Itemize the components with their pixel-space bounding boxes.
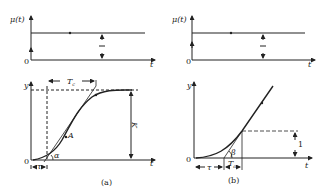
origin-label: 0	[24, 57, 29, 66]
panel-a-input-plot	[31, 16, 155, 60]
svg-text:τ: τ	[207, 163, 212, 172]
response-curve	[33, 90, 132, 160]
alpha-label: α	[54, 151, 60, 160]
svg-text:t: t	[308, 60, 312, 69]
svg-text:0: 0	[24, 157, 29, 166]
svg-text:y: y	[186, 81, 192, 90]
beta-label: β	[230, 148, 236, 157]
input-ylabel: μ(t)	[10, 15, 25, 24]
unit-label: 1	[298, 140, 303, 149]
svg-text:μ(t): μ(t)	[172, 15, 187, 24]
panel-b-response-plot	[194, 82, 312, 170]
panel-b-input-plot	[192, 16, 315, 60]
svg-text:0: 0	[186, 155, 191, 164]
svg-text:t: t	[305, 161, 309, 170]
tc-label: Tc	[67, 77, 75, 87]
gain-label: K	[130, 121, 139, 129]
ta-label: Ta	[228, 159, 236, 169]
tangent-line	[44, 86, 96, 162]
caption-a: (a)	[101, 178, 112, 187]
response-ylabel: y	[23, 81, 29, 90]
direction-dot-icon	[69, 32, 71, 34]
input-xlabel: t	[150, 60, 154, 69]
inflection-point-dot	[65, 136, 67, 138]
svg-text:0: 0	[186, 57, 191, 66]
alpha-arc	[51, 155, 53, 160]
step-response-diagram: μ(t) 0 t y 0 t Tc A α τ K (a)	[0, 0, 327, 196]
inflection-label: A	[67, 131, 74, 140]
caption-b: (b)	[228, 176, 239, 185]
tau-label: τ	[37, 162, 42, 171]
